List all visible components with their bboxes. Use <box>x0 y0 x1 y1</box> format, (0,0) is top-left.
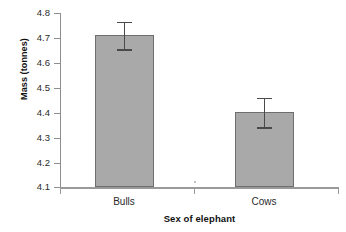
y-tick-mark <box>54 88 61 89</box>
error-bar-stem-bulls <box>124 22 126 49</box>
x-tick-label-cows: Cows <box>219 196 309 208</box>
x-axis-line <box>60 187 339 189</box>
y-tick-mark <box>54 138 61 139</box>
x-tick-label-bulls: Bulls <box>79 196 169 208</box>
y-tick-label-4-2: 4.2 <box>18 158 50 168</box>
y-tick-label-4-8: 4.8 <box>18 8 50 18</box>
error-bar-cap-upper-cows <box>257 98 272 100</box>
y-tick-label-4-4: 4.4 <box>18 108 50 118</box>
y-tick-mark <box>54 163 61 164</box>
y-axis-line <box>60 13 61 188</box>
scan-artifact-speck <box>194 181 196 183</box>
y-tick-label-4-5: 4.5 <box>18 83 50 93</box>
x-tick-mark-end <box>338 188 339 194</box>
error-bar-stem-cows <box>264 98 266 128</box>
x-tick-mark-middle <box>194 188 195 194</box>
x-axis-title: Sex of elephant <box>60 213 339 224</box>
error-bar-cap-lower-cows <box>257 127 272 129</box>
y-tick-label-4-6: 4.6 <box>18 58 50 68</box>
bar-chart: Mass (tonnes) 4.8 4.7 4.6 4.5 4.4 4.3 4.… <box>0 0 346 232</box>
y-tick-mark <box>54 38 61 39</box>
y-tick-label-4-1: 4.1 <box>18 182 50 192</box>
bar-bulls <box>95 35 154 187</box>
y-tick-mark <box>54 113 61 114</box>
error-bar-cap-upper-bulls <box>117 22 132 24</box>
y-tick-mark <box>54 13 61 14</box>
y-tick-label-4-7: 4.7 <box>18 33 50 43</box>
y-tick-mark <box>54 63 61 64</box>
y-tick-label-4-3: 4.3 <box>18 133 50 143</box>
error-bar-cap-lower-bulls <box>117 49 132 51</box>
x-tick-mark-start <box>60 188 61 194</box>
